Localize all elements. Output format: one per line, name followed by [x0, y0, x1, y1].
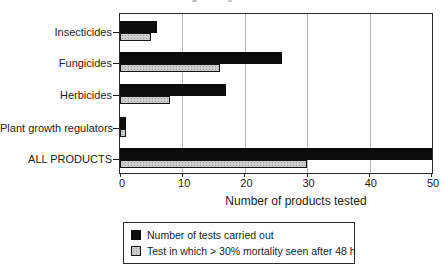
- category-tick-all-products: [113, 159, 119, 160]
- legend-item-mortality: Test in which > 30% mortality seen after…: [131, 245, 347, 258]
- legend-item-tests-carried-out: Number of tests carried out: [131, 229, 347, 242]
- bar-mortality-fungicides: [120, 64, 220, 72]
- bar-mortality-plant-growth-regulators: [120, 129, 126, 137]
- bar-tests-insecticides: [120, 21, 157, 33]
- legend-box: Number of tests carried out Test in whic…: [123, 222, 355, 264]
- bar-tests-fungicides: [120, 52, 282, 64]
- legend-swatch-black: [131, 230, 141, 240]
- bar-mortality-herbicides: [120, 96, 170, 104]
- cropped-text-remnant: [192, 0, 197, 2]
- bar-tests-herbicides: [120, 84, 226, 96]
- category-tick-herbicides: [113, 95, 119, 96]
- plot-area: [119, 13, 433, 174]
- bar-tests-plant-growth-regulators: [120, 117, 126, 129]
- category-label-plant-growth-regulators: Plant growth regulators: [0, 121, 112, 135]
- category-label-herbicides: Herbicides: [0, 88, 112, 102]
- x-axis-tick-label-50: 50: [427, 177, 439, 189]
- x-axis-tick-label-40: 40: [365, 177, 377, 189]
- bar-mortality-insecticides: [120, 33, 151, 41]
- figure: InsecticidesFungicidesHerbicidesPlant gr…: [0, 0, 444, 280]
- cropped-text-remnant: [228, 0, 232, 2]
- x-axis-tick-label-30: 30: [302, 177, 314, 189]
- legend-label: Number of tests carried out: [147, 229, 274, 242]
- x-axis-tick-label-20: 20: [240, 177, 252, 189]
- category-label-fungicides: Fungicides: [0, 56, 112, 70]
- bar-mortality-all-products: [120, 160, 307, 168]
- legend-swatch-gray: [131, 246, 141, 256]
- category-tick-plant-growth-regulators: [113, 128, 119, 129]
- category-tick-fungicides: [113, 63, 119, 64]
- bar-tests-all-products: [120, 148, 432, 160]
- x-axis-title: Number of products tested: [225, 194, 366, 208]
- category-label-insecticides: Insecticides: [0, 25, 112, 39]
- x-axis-tick-label-0: 0: [119, 177, 125, 189]
- x-axis-tick-label-10: 10: [178, 177, 190, 189]
- legend-label: Test in which > 30% mortality seen after…: [147, 245, 356, 258]
- category-label-all-products: ALL PRODUCTS: [0, 152, 112, 166]
- category-tick-insecticides: [113, 32, 119, 33]
